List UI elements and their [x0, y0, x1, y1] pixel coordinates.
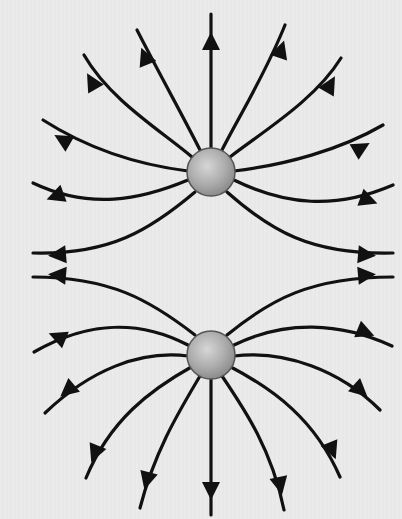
bottom-charge: [187, 331, 235, 379]
arrowhead-icon: [357, 265, 377, 285]
arrowhead-icon: [47, 265, 67, 285]
arrowhead-icon: [202, 482, 220, 500]
bottom-charge-field-lines: [33, 265, 393, 515]
field-line-bottom-down-left-2: [86, 366, 193, 478]
charges: [187, 148, 235, 379]
field-line-top-up-right-1: [222, 25, 285, 150]
arrowhead-icon: [357, 245, 377, 265]
top-charge: [187, 148, 235, 196]
arrowhead-icon: [79, 69, 104, 94]
arrowhead-icon: [354, 321, 377, 344]
arrowhead-icon: [202, 32, 220, 50]
field-line-diagram: [0, 0, 402, 519]
field-line-top-left-3: [33, 192, 195, 253]
field-line-top-up-right-2: [230, 58, 341, 157]
top-charge-field-lines: [33, 14, 393, 265]
diagram-canvas: Electric field lines of two like (positi…: [0, 0, 402, 519]
arrowhead-icon: [47, 245, 67, 265]
field-line-bottom-down-right-2: [229, 366, 340, 477]
field-line-top-up-left-1: [137, 30, 200, 150]
